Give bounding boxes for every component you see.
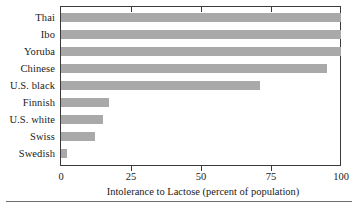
x-tick-top-25 <box>131 6 132 12</box>
bar-ibo <box>61 30 341 39</box>
category-label-chinese: Chinese <box>20 63 55 75</box>
category-label-finnish: Finnish <box>23 97 55 109</box>
x-tick-label-100: 100 <box>333 171 349 183</box>
category-label-swedish: Swedish <box>19 148 55 160</box>
x-tick-top-50 <box>201 6 202 12</box>
lactose-intolerance-bar-chart: Thai Ibo Yoruba Chinese U.S. black Finni… <box>0 0 358 210</box>
category-label-yoruba: Yoruba <box>24 46 55 58</box>
footer-divider <box>6 201 352 202</box>
bar-us-white <box>61 115 103 124</box>
x-tick-label-50: 50 <box>196 171 207 183</box>
bar-us-black <box>61 81 260 90</box>
category-label-ibo: Ibo <box>41 29 55 41</box>
bar-yoruba <box>61 47 341 56</box>
category-axis-labels: Thai Ibo Yoruba Chinese U.S. black Finni… <box>0 8 57 162</box>
category-label-swiss: Swiss <box>30 131 55 143</box>
bar-swedish <box>61 149 67 158</box>
x-tick-label-75: 75 <box>266 171 277 183</box>
x-tick-label-0: 0 <box>58 171 63 183</box>
category-label-us-white: U.S. white <box>9 114 55 126</box>
x-axis-title: Intolerance to Lactose (percent of popul… <box>0 186 358 198</box>
bar-swiss <box>61 132 95 141</box>
x-tick-top-75 <box>271 6 272 12</box>
category-label-thai: Thai <box>35 12 55 24</box>
bars-layer <box>61 7 341 165</box>
bar-thai <box>61 13 341 22</box>
x-tick-label-25: 25 <box>126 171 137 183</box>
category-label-us-black: U.S. black <box>10 80 55 92</box>
bar-chinese <box>61 64 327 73</box>
bar-finnish <box>61 98 109 107</box>
